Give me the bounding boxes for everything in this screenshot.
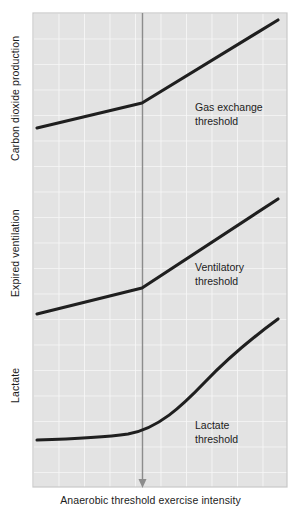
annotation-gas-exchange-threshold: Gas exchange threshold (195, 101, 263, 128)
annotation-lactate-threshold-line1: Lactate (195, 419, 238, 433)
plot-grid-background (33, 13, 287, 487)
annotation-lactate-threshold: Lactate threshold (195, 419, 238, 446)
figure-container: Carbon dioxide production Expired ventil… (0, 0, 301, 513)
annotation-lactate-threshold-line2: threshold (195, 433, 238, 447)
annotation-ventilatory-threshold-line1: Ventilatory (195, 261, 244, 275)
annotation-ventilatory-threshold: Ventilatory threshold (195, 261, 244, 288)
plot-area (0, 0, 301, 513)
annotation-gas-exchange-threshold-line2: threshold (195, 115, 263, 129)
x-axis-label: Anaerobic threshold exercise intensity (0, 494, 301, 506)
annotation-gas-exchange-threshold-line1: Gas exchange (195, 101, 263, 115)
annotation-ventilatory-threshold-line2: threshold (195, 275, 244, 289)
